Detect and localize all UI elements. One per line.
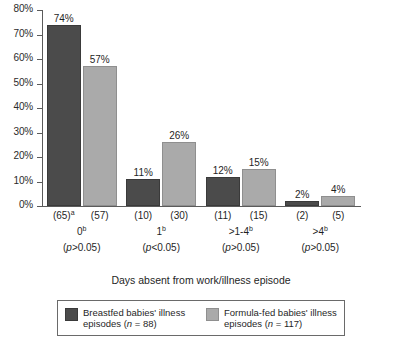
bar-value-label: 4% (331, 184, 345, 195)
x-group-pvalue->4: (p>0.05) (301, 242, 339, 253)
bar->1-4-series-2: 15% (242, 169, 276, 206)
x-group-pvalue-0: (p>0.05) (63, 242, 101, 253)
y-tick-label: 40% (14, 101, 33, 112)
x-group-label->4: >4b (313, 226, 328, 237)
y-tick-label: 0% (19, 199, 33, 210)
y-tick-label: 30% (14, 126, 33, 137)
bar-0-series-1: 74% (47, 25, 81, 206)
legend-entry-1: Breastfed babies' illnessepisodes (n = 8… (65, 307, 196, 330)
bar-chart: 0%10%20%30%40%50%60%70%80% 74%57%11%26%1… (0, 0, 402, 345)
legend-entry-2: Formula-fed babies' illnessepisodes (n =… (206, 307, 337, 330)
bar-value-label: 15% (249, 157, 269, 168)
bar-count-label: (10) (134, 210, 152, 221)
y-tick-label: 20% (14, 150, 33, 161)
legend-swatch-series-2 (206, 308, 219, 321)
bar-1-series-1: 11% (126, 179, 160, 206)
bar->4-series-2: 4% (321, 196, 355, 206)
bar->1-4-series-1: 12% (206, 177, 240, 206)
y-tick-label: 50% (14, 77, 33, 88)
chart-legend: Breastfed babies' illnessepisodes (n = 8… (57, 300, 345, 336)
bar-count-label: (57) (91, 210, 109, 221)
x-axis-title: Days absent from work/illness episode (0, 274, 402, 286)
legend-swatch-series-1 (65, 308, 78, 321)
bar-value-label: 74% (54, 13, 74, 24)
x-group-label-0: 0b (77, 226, 86, 237)
x-group-label-1: 1b (157, 226, 166, 237)
y-tick-label: 60% (14, 52, 33, 63)
bar->4-series-1: 2% (285, 201, 319, 206)
bar-value-label: 11% (134, 167, 153, 178)
bar-value-label: 12% (213, 165, 233, 176)
bar-count-label: (15) (250, 210, 268, 221)
bar-value-label: 26% (169, 130, 189, 141)
bar-count-label: (65)a (53, 210, 75, 221)
y-tick-label: 10% (14, 175, 33, 186)
legend-label: Breastfed babies' illnessepisodes (n = 8… (83, 307, 185, 330)
x-group-label->1-4: >1-4b (229, 226, 253, 237)
bar-count-label: (30) (170, 210, 188, 221)
plot-area: 74%57%11%26%12%15%2%4% (42, 10, 360, 206)
bar-value-label: 2% (295, 189, 309, 200)
bar-count-label: (11) (214, 210, 231, 221)
bar-count-label: (2) (296, 210, 308, 221)
y-tick-label: 70% (14, 28, 33, 39)
bar-count-label: (5) (332, 210, 344, 221)
x-group-pvalue-1: (p<0.05) (142, 242, 180, 253)
legend-label: Formula-fed babies' illnessepisodes (n =… (224, 307, 337, 330)
bar-1-series-2: 26% (162, 142, 196, 206)
bar-value-label: 57% (90, 54, 110, 65)
y-tick-label: 80% (14, 3, 33, 14)
x-axis-labels: (65)a(57)0b(p>0.05)(10)(30)1b(p<0.05)(11… (42, 207, 360, 267)
x-group-pvalue->1-4: (p>0.05) (222, 242, 260, 253)
bar-0-series-2: 57% (83, 66, 117, 206)
